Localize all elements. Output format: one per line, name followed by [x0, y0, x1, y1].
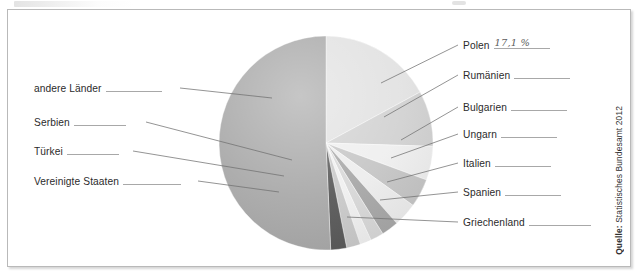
callout-label-andere-laender: andere Länder — [34, 83, 102, 95]
answer-line-polen[interactable]: 17,1 % — [494, 39, 550, 49]
figure-frame: Polen17,1 % Rumänien Bulgarien Ungarn It… — [7, 9, 631, 267]
source-note-value: Statistisches Bundesamt 2012 — [614, 106, 624, 225]
callout-vereinigte-staaten[interactable]: Vereinigte Staaten — [34, 175, 181, 188]
callout-tuerkei[interactable]: Türkei — [34, 145, 119, 158]
source-note: Quelle: Statistisches Bundesamt 2012 — [614, 106, 624, 255]
callout-label-serbien: Serbien — [34, 117, 70, 129]
callout-serbien[interactable]: Serbien — [34, 116, 126, 129]
leader-line-vereinigte-staaten — [198, 181, 279, 192]
leader-line-italien — [387, 163, 458, 182]
callout-italien[interactable]: Italien — [463, 157, 551, 170]
leader-line-bulgarien — [401, 107, 458, 140]
callout-label-tuerkei: Türkei — [34, 146, 63, 158]
callout-andere-laender[interactable]: andere Länder — [34, 82, 162, 95]
callout-griechenland[interactable]: Griechenland — [463, 216, 591, 229]
answer-line-ungarn[interactable] — [501, 128, 557, 138]
answer-line-spanien[interactable] — [505, 186, 561, 196]
scan-artifact-top-edge — [14, 1, 134, 7]
answer-line-italien[interactable] — [495, 157, 551, 167]
leader-line-serbien — [146, 122, 292, 160]
leader-line-polen — [381, 45, 458, 83]
answer-line-tuerkei[interactable] — [67, 145, 119, 155]
leader-line-ungarn — [391, 134, 458, 158]
answer-value-polen: 17,1 % — [495, 38, 530, 48]
scanned-page: Polen17,1 % Rumänien Bulgarien Ungarn It… — [0, 0, 644, 278]
leader-line-spanien — [380, 192, 458, 200]
leader-line-griechenland — [347, 217, 458, 222]
callout-label-polen: Polen — [463, 40, 490, 52]
callout-label-griechenland: Griechenland — [463, 217, 525, 229]
callout-polen[interactable]: Polen17,1 % — [463, 39, 550, 52]
callout-label-spanien: Spanien — [463, 187, 501, 199]
answer-line-serbien[interactable] — [74, 116, 126, 126]
leader-line-rumaenien — [384, 75, 458, 117]
callout-label-bulgarien: Bulgarien — [463, 102, 507, 114]
callout-spanien[interactable]: Spanien — [463, 186, 561, 199]
source-note-key: Quelle: — [614, 225, 624, 254]
callout-rumaenien[interactable]: Rumänien — [463, 69, 570, 82]
callout-bulgarien[interactable]: Bulgarien — [463, 101, 567, 114]
callout-label-italien: Italien — [463, 158, 491, 170]
scan-artifact-speck — [452, 1, 466, 5]
answer-line-rumaenien[interactable] — [514, 69, 570, 79]
leader-line-tuerkei — [133, 151, 284, 176]
callout-label-ungarn: Ungarn — [463, 129, 497, 141]
answer-line-griechenland[interactable] — [529, 216, 591, 226]
leader-line-andere-laender — [180, 88, 272, 98]
answer-line-andere-laender[interactable] — [106, 82, 162, 92]
callout-label-rumaenien: Rumänien — [463, 70, 510, 82]
callout-ungarn[interactable]: Ungarn — [463, 128, 557, 141]
answer-line-vereinigte-staaten[interactable] — [123, 175, 181, 185]
pie-chart-stage: Polen17,1 % Rumänien Bulgarien Ungarn It… — [8, 10, 630, 266]
answer-line-bulgarien[interactable] — [511, 101, 567, 111]
callout-label-vereinigte-staaten: Vereinigte Staaten — [34, 176, 119, 188]
